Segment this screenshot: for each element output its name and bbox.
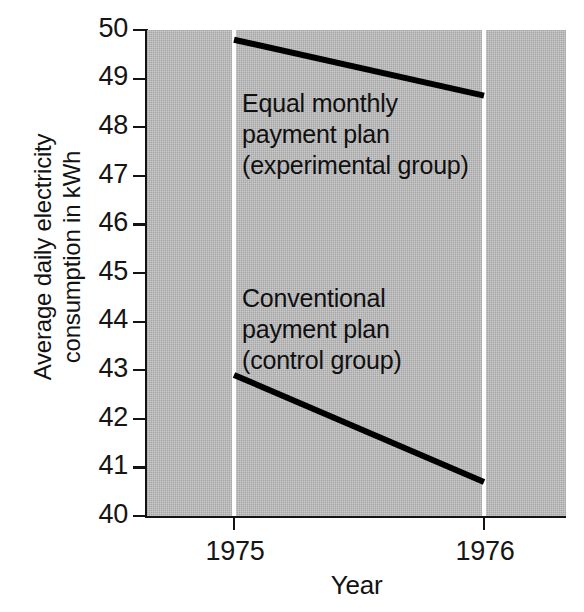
chart-figure: 50 49 48 47 46 45 44 43 42 41 40 xyxy=(0,0,584,612)
y-tick-label: 49 xyxy=(74,63,128,90)
x-tick-label: 1976 xyxy=(456,536,515,566)
y-axis-title: Average daily electricity consumption in… xyxy=(28,92,86,422)
annotation-experimental: Equal monthly payment plan (experimental… xyxy=(242,88,469,181)
plot-area: Equal monthly payment plan (experimental… xyxy=(147,30,566,516)
y-tick-label: 41 xyxy=(74,452,128,479)
y-tick-label: 50 xyxy=(74,15,128,42)
x-tick-mark xyxy=(483,517,485,530)
y-tick-label: 40 xyxy=(74,501,128,528)
x-tick-label: 1975 xyxy=(206,536,265,566)
series-line-control xyxy=(234,375,484,482)
annotation-control: Conventional payment plan (control group… xyxy=(242,283,402,376)
x-axis-title: Year xyxy=(147,570,566,601)
x-tick-mark xyxy=(233,517,235,530)
